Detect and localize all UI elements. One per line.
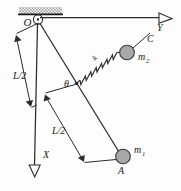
mass-two [120,45,135,60]
support-hatching [19,7,62,14]
dimension-lower-arrow-top [44,95,51,102]
label-axis-x: X [42,149,50,160]
dimension-upper-arrow-bottom [26,100,33,107]
label-point-c: C [147,33,154,44]
axis-x-arrowhead [29,165,40,177]
dimension-lower-arrow-bottom [78,155,85,162]
label-point-a: A [117,165,125,176]
dimension-lower-half-length [44,85,116,163]
dimension-upper-half-length [14,23,38,108]
mass-one-sphere [116,149,131,164]
label-mass-two-sub: 2 [146,57,150,64]
label-length-lower: L/2 [51,125,65,136]
pivot-center-dot [37,18,39,20]
label-spring-constant-k: k [90,53,99,62]
label-axis-y: Y [157,22,164,33]
label-mass-one-sub: 1 [142,150,145,157]
coil-spring [77,52,123,84]
mass-one [116,149,131,164]
label-mass-one-base: m [134,144,141,155]
spring-coils [80,52,117,84]
axis-x-line [35,24,38,166]
diagram-canvas: O X Y θ k m 2 m 1 A C L/2 L/2 [0,0,181,191]
physics-diagram-figure: O X Y θ k m 2 m 1 A C L/2 L/2 [0,0,181,191]
label-mass-one: m 1 [134,144,145,157]
spring-lead-start [77,80,81,83]
ceiling-support [18,7,63,14]
dimension-lower-ext-bottom [85,160,117,163]
label-mass-two: m 2 [138,51,150,64]
label-pivot-o: O [24,16,32,28]
label-mass-two-base: m [138,51,145,62]
mass-two-sphere [120,45,135,60]
dimension-lower-ext-top [46,85,76,94]
label-angle-theta: θ [64,78,69,89]
label-length-upper: L/2 [12,70,26,81]
dimension-upper-arrow-top [14,35,21,42]
